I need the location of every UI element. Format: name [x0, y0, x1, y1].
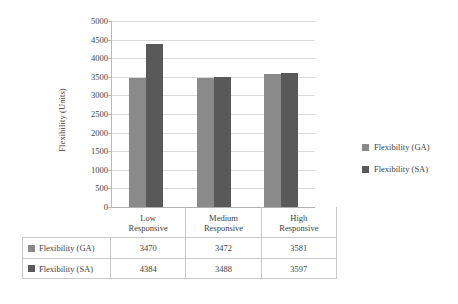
- bar-ga-0: [129, 78, 146, 207]
- legend-item-ga: Flexibility (GA): [362, 136, 456, 158]
- category-label-0-line1: Low: [140, 213, 156, 223]
- category-label-1-line2: Responsive: [204, 223, 243, 233]
- bar-ga-2: [264, 74, 281, 207]
- bar-sa-2: [281, 73, 298, 207]
- table-cell-sa-0: 4384: [111, 259, 186, 278]
- y-axis-tick-labels: 5000450040003500300025002000150010005000: [72, 14, 108, 210]
- table-row: Flexibility (SA) 4384 3488 3597: [22, 258, 337, 279]
- table-cell-ga-0: 3470: [111, 238, 186, 258]
- y-axis-tick-label: 4500: [72, 36, 108, 45]
- bar-ga-1: [197, 78, 214, 207]
- category-header-corner: [22, 207, 111, 237]
- legend-item-sa: Flexibility (SA): [362, 158, 456, 180]
- table-cell-sa-2: 3597: [262, 259, 337, 278]
- table-row-label-sa: Flexibility (SA): [22, 259, 111, 278]
- table-cell-sa-1: 3488: [186, 259, 261, 278]
- y-axis-tick-label: 2500: [72, 110, 108, 119]
- category-label-2-line2: Responsive: [279, 223, 318, 233]
- y-axis-tick-label: 5000: [72, 17, 108, 26]
- legend-label-ga: Flexibility (GA): [374, 142, 429, 152]
- category-label-2-line1: High: [290, 213, 307, 223]
- y-axis-tick-label: 3000: [72, 91, 108, 100]
- plot-area: [111, 21, 314, 207]
- y-axis-title: Flexibility (Units): [54, 60, 70, 180]
- bar-sa-1: [214, 77, 231, 207]
- y-axis-tick-label: 500: [72, 184, 108, 193]
- legend-label-sa: Flexibility (SA): [374, 164, 428, 174]
- table-cell-ga-1: 3472: [186, 238, 261, 258]
- table-row-label-ga: Flexibility (GA): [22, 238, 111, 258]
- y-axis-tick-label: 4000: [72, 54, 108, 63]
- category-header-row: Low Responsive Medium Responsive High Re…: [22, 207, 337, 237]
- chart-legend: Flexibility (GA) Flexibility (SA): [362, 136, 456, 180]
- category-label-1: Medium Responsive: [186, 207, 261, 237]
- series-swatch-sa-icon: [28, 265, 35, 272]
- bar-sa-0: [146, 44, 163, 207]
- series-swatch-ga-icon: [28, 245, 35, 252]
- legend-swatch-ga-icon: [362, 144, 369, 151]
- table-row-label-sa-text: Flexibility (SA): [39, 264, 93, 274]
- category-label-1-line1: Medium: [209, 213, 238, 223]
- y-axis-tick-label: 1000: [72, 166, 108, 175]
- y-axis-tick-label: 3500: [72, 73, 108, 82]
- chart-figure: Flexibility (Units) 50004500400035003000…: [0, 0, 458, 304]
- category-label-0: Low Responsive: [111, 207, 186, 237]
- category-label-0-line2: Responsive: [129, 223, 168, 233]
- y-axis-tick-label: 1500: [72, 147, 108, 156]
- table-row: Flexibility (GA) 3470 3472 3581: [22, 237, 337, 258]
- legend-swatch-sa-icon: [362, 166, 369, 173]
- bar-series-layer: [112, 21, 315, 207]
- y-axis-tick-label: 2000: [72, 129, 108, 138]
- data-table: Low Responsive Medium Responsive High Re…: [22, 207, 337, 279]
- table-row-label-ga-text: Flexibility (GA): [39, 243, 94, 253]
- category-label-2: High Responsive: [262, 207, 337, 237]
- table-cell-ga-2: 3581: [262, 238, 337, 258]
